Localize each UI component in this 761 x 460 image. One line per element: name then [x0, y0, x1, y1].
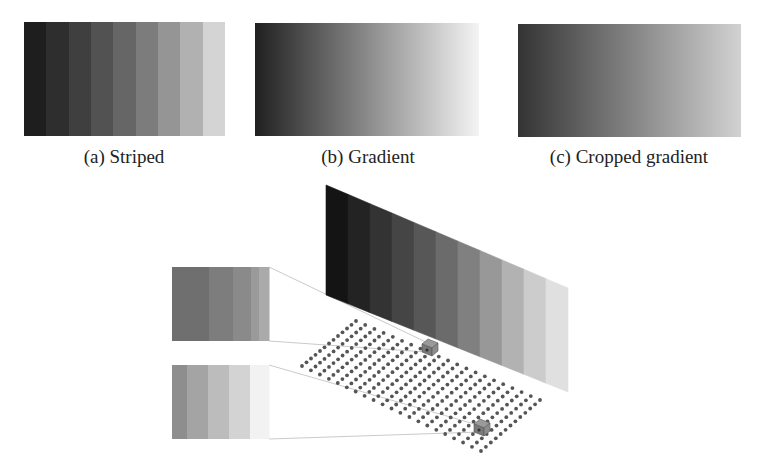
floor-dot	[450, 391, 454, 395]
floor-dot	[368, 354, 372, 358]
floor-dot	[372, 386, 376, 390]
floor-dot	[467, 424, 471, 428]
floor-dot	[358, 386, 362, 390]
wall-stripe	[414, 222, 436, 339]
floor-dot	[478, 391, 482, 395]
floor-dot	[414, 375, 418, 379]
floor-dot	[323, 357, 327, 361]
floor-dot	[399, 387, 403, 391]
floor-dot	[345, 327, 349, 331]
floor-dot	[505, 403, 509, 407]
floor-dot	[483, 387, 487, 391]
floor-dot	[460, 371, 464, 375]
floor-dot	[359, 374, 363, 378]
floor-dot	[483, 374, 487, 378]
floor-dot	[435, 415, 439, 419]
floor-dot	[395, 355, 399, 359]
floor-dot	[436, 403, 440, 407]
floor-dot	[414, 351, 418, 355]
floor-dot	[400, 351, 404, 355]
floor-dot	[404, 371, 408, 375]
floor-dot	[453, 424, 457, 428]
floor-dot	[354, 378, 358, 382]
floor-dot	[437, 355, 441, 359]
floor-dot	[418, 395, 422, 399]
floor-dot	[327, 353, 331, 357]
floor-dot	[386, 362, 390, 366]
floor-dot	[395, 366, 399, 370]
floor-dot	[446, 371, 450, 375]
inset-stripe	[187, 365, 209, 439]
floor-dot	[345, 338, 349, 342]
floor-dot	[455, 387, 459, 391]
floor-dot	[482, 399, 486, 403]
floor-dot	[386, 374, 390, 378]
floor-dot	[417, 407, 421, 411]
floor-dot	[479, 449, 483, 453]
floor-dot	[363, 370, 367, 374]
floor-dot	[413, 387, 417, 391]
floor-dot	[400, 339, 404, 343]
floor-dot	[481, 411, 485, 415]
floor-dot	[491, 403, 495, 407]
floor-dot	[418, 371, 422, 375]
floor-dot	[386, 339, 390, 343]
floor-dot	[440, 399, 444, 403]
floor-dot	[455, 375, 459, 379]
inset-stripe	[172, 365, 188, 439]
floor-dot	[533, 402, 537, 406]
floor-dot	[509, 411, 513, 415]
floor-dot	[336, 369, 340, 373]
floor-dot	[373, 362, 377, 366]
floor-dot	[314, 365, 318, 369]
floor-dot	[495, 424, 499, 428]
floor-dot	[382, 331, 386, 335]
floor-dot	[385, 398, 389, 402]
camera-setup-diagram	[0, 0, 761, 460]
floor-dot	[495, 411, 499, 415]
floor-dot	[345, 350, 349, 354]
inset-stripe	[251, 267, 260, 341]
floor-dot	[486, 407, 490, 411]
floor-dot	[376, 394, 380, 398]
floor-dot	[477, 416, 481, 420]
floor-dot	[492, 391, 496, 395]
floor-dot	[350, 346, 354, 350]
floor-dot	[434, 428, 438, 432]
floor-dot	[332, 338, 336, 342]
floor-dot	[464, 379, 468, 383]
floor-dot	[405, 359, 409, 363]
floor-dot	[354, 331, 358, 335]
floor-dot	[314, 353, 318, 357]
floor-dot	[386, 351, 390, 355]
inset-stripe	[229, 365, 251, 439]
floor-dot	[400, 374, 404, 378]
floor-dot	[519, 403, 523, 407]
floor-dot	[390, 382, 394, 386]
floor-dot	[309, 357, 313, 361]
floor-dot	[373, 350, 377, 354]
floor-dot	[400, 363, 404, 367]
floor-dot	[405, 347, 409, 351]
floor-dot	[449, 403, 453, 407]
floor-dot	[354, 319, 358, 323]
floor-dot	[350, 334, 354, 338]
floor-dot	[504, 428, 508, 432]
floor-dot	[418, 359, 422, 363]
floor-dot	[487, 383, 491, 387]
inset-stripe	[209, 267, 234, 341]
floor-dot	[391, 335, 395, 339]
floor-dot	[451, 367, 455, 371]
floor-dot	[441, 363, 445, 367]
floor-dot	[520, 390, 524, 394]
floor-dot	[452, 436, 456, 440]
floor-dot	[399, 399, 403, 403]
floor-dot	[377, 382, 381, 386]
floor-dot	[372, 374, 376, 378]
floor-dot	[336, 381, 340, 385]
floor-dot	[462, 428, 466, 432]
floor-dot	[422, 391, 426, 395]
inset-stripe	[250, 365, 270, 439]
floor-dot	[377, 358, 381, 362]
wall-stripe	[392, 213, 414, 330]
